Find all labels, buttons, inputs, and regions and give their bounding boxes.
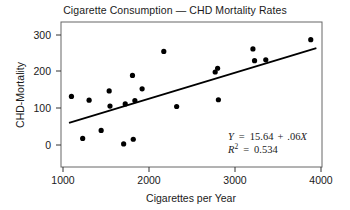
r-squared-value: 0.534: [254, 144, 278, 155]
data-point: [250, 46, 255, 51]
data-point: [80, 136, 85, 141]
data-point: [161, 49, 166, 54]
y-tick-label-100: 100: [33, 102, 51, 114]
data-point: [87, 98, 92, 103]
data-point: [107, 103, 112, 108]
plot-frame: [61, 22, 322, 167]
equation-line: Y=15.64+.06X: [228, 131, 307, 142]
x-tick-label-2000: 2000: [137, 174, 161, 186]
chart-figure: Cigarette Consumption — CHD Mortality Ra…: [0, 0, 350, 210]
data-point: [130, 73, 135, 78]
data-point: [215, 66, 220, 71]
x-axis-title: Cigarettes per Year: [146, 192, 236, 204]
y-axis-title: CHD-Mortality: [14, 61, 26, 128]
scatter-plot: 300 200 100 0 1000 2000 3000 4000 Cigare…: [0, 0, 350, 210]
equation-intercept: 15.64: [250, 131, 274, 142]
x-axis-tick-labels: 1000 2000 3000 4000: [51, 174, 333, 186]
data-point: [99, 128, 104, 133]
r-squared-equals: =: [243, 144, 249, 155]
data-point: [121, 141, 126, 146]
equation-plus: +: [277, 131, 283, 142]
x-tick-label-4000: 4000: [309, 174, 333, 186]
data-point: [69, 94, 74, 99]
y-tick-label-0: 0: [45, 139, 51, 151]
y-tick-label-200: 200: [33, 65, 51, 77]
data-point: [132, 98, 137, 103]
x-tick-label-1000: 1000: [51, 174, 75, 186]
data-point: [131, 137, 136, 142]
data-point: [263, 57, 268, 62]
data-point: [252, 58, 257, 63]
data-point: [123, 101, 128, 106]
y-axis-tick-labels: 300 200 100 0: [33, 29, 51, 151]
y-axis-ticks: [56, 35, 61, 145]
data-point: [107, 88, 112, 93]
data-point: [216, 97, 221, 102]
data-point: [140, 86, 145, 91]
x-axis-ticks: [63, 167, 321, 172]
equation-equals: =: [239, 131, 245, 142]
x-tick-label-3000: 3000: [223, 174, 247, 186]
y-tick-label-300: 300: [33, 29, 51, 41]
equation-predictor: X: [299, 131, 307, 142]
data-point: [308, 37, 313, 42]
data-point: [174, 104, 179, 109]
equation-slope: .06: [287, 131, 300, 142]
r-squared-exponent: 2: [234, 142, 238, 151]
